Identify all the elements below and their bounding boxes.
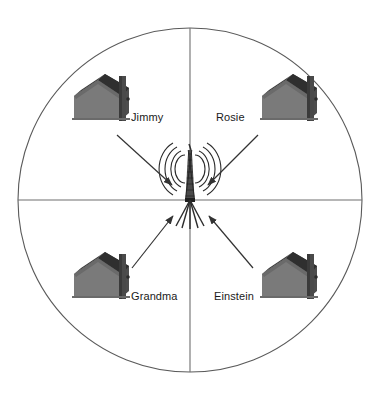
diagram-canvas bbox=[0, 0, 381, 397]
arrow-grandma-to-tower bbox=[132, 216, 173, 268]
arrow-rosie-to-tower bbox=[208, 135, 258, 185]
house-icon-einstein bbox=[260, 252, 318, 299]
coverage-diagram: Jimmy Rosie Grandma Einstein bbox=[0, 0, 381, 397]
house-icon-jimmy bbox=[72, 74, 130, 121]
arrow-einstein-to-tower bbox=[209, 216, 253, 268]
arrow-jimmy-to-tower bbox=[117, 135, 172, 185]
house-label-rosie: Rosie bbox=[216, 111, 245, 123]
house-icon-grandma bbox=[72, 252, 130, 299]
radio-tower-icon bbox=[159, 143, 221, 229]
house-icon-rosie bbox=[260, 74, 318, 121]
house-label-grandma: Grandma bbox=[131, 290, 178, 302]
house-label-jimmy: Jimmy bbox=[131, 111, 163, 123]
house-label-einstein: Einstein bbox=[214, 290, 254, 302]
